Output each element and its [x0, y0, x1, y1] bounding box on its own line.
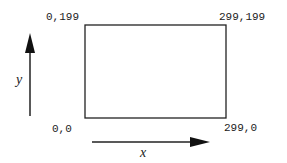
y-axis-arrow: [25, 33, 35, 116]
corner-label-top-right: 299,199: [219, 11, 265, 23]
x-axis-arrow: [92, 137, 210, 147]
corner-label-bottom-right: 299,0: [224, 122, 257, 134]
corner-label-top-left: 0,199: [46, 11, 79, 23]
coordinate-diagram: 0,199 299,199 0,0 299,0 y x: [0, 0, 287, 163]
corner-label-bottom-left: 0,0: [52, 123, 72, 135]
canvas-rectangle: [85, 25, 226, 118]
y-axis-label: y: [14, 72, 23, 87]
x-axis-label: x: [139, 145, 147, 160]
